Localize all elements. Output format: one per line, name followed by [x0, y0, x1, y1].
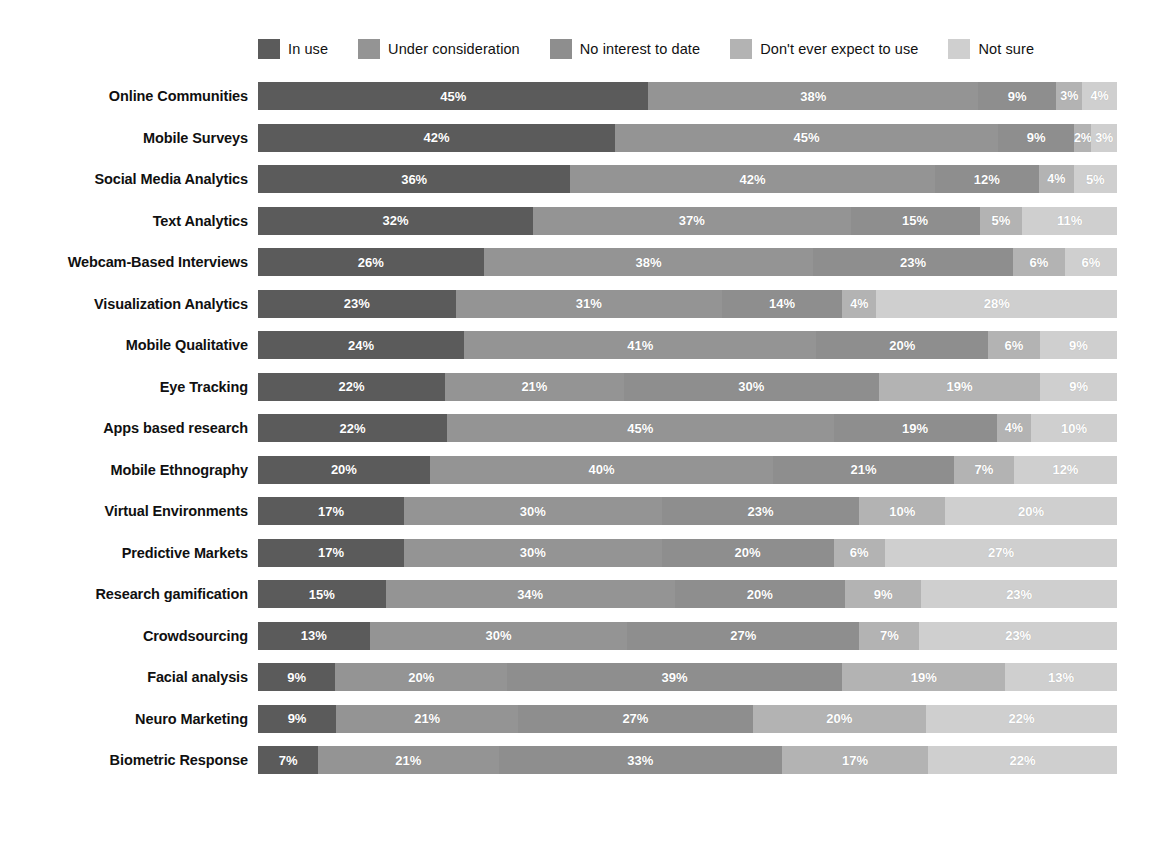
- bar-segment[interactable]: 15%: [851, 207, 980, 235]
- stacked-bar[interactable]: 15%34%20%9%23%: [258, 580, 1117, 608]
- bar-segment[interactable]: 4%: [1039, 165, 1074, 193]
- stacked-bar[interactable]: 9%21%27%20%22%: [258, 705, 1117, 733]
- bar-segment[interactable]: 7%: [258, 746, 318, 774]
- bar-segment[interactable]: 6%: [988, 331, 1040, 359]
- bar-segment[interactable]: 9%: [1040, 373, 1117, 401]
- bar-segment[interactable]: 38%: [484, 248, 814, 276]
- bar-segment[interactable]: 39%: [507, 663, 842, 691]
- bar-segment[interactable]: 6%: [834, 539, 886, 567]
- bar-segment[interactable]: 12%: [935, 165, 1039, 193]
- bar-segment[interactable]: 9%: [258, 663, 335, 691]
- bar-segment[interactable]: 37%: [533, 207, 851, 235]
- bar-segment[interactable]: 20%: [675, 580, 845, 608]
- legend-item[interactable]: Not sure: [948, 39, 1034, 59]
- bar-segment[interactable]: 23%: [662, 497, 860, 525]
- bar-segment[interactable]: 10%: [1031, 414, 1117, 442]
- bar-segment[interactable]: 24%: [258, 331, 464, 359]
- bar-segment[interactable]: 22%: [258, 373, 445, 401]
- bar-segment[interactable]: 41%: [464, 331, 816, 359]
- legend-item[interactable]: Under consideration: [358, 39, 520, 59]
- bar-segment[interactable]: 20%: [662, 539, 834, 567]
- bar-segment[interactable]: 34%: [386, 580, 675, 608]
- bar-segment[interactable]: 19%: [879, 373, 1041, 401]
- bar-segment[interactable]: 21%: [336, 705, 518, 733]
- legend-item[interactable]: In use: [258, 39, 328, 59]
- bar-segment[interactable]: 23%: [258, 290, 456, 318]
- bar-segment[interactable]: 12%: [1014, 456, 1117, 484]
- bar-segment[interactable]: 5%: [980, 207, 1023, 235]
- bar-segment[interactable]: 31%: [456, 290, 722, 318]
- bar-segment[interactable]: 42%: [258, 124, 615, 152]
- bar-segment[interactable]: 17%: [258, 539, 404, 567]
- stacked-bar[interactable]: 32%37%15%5%11%: [258, 207, 1117, 235]
- bar-segment[interactable]: 20%: [258, 456, 430, 484]
- bar-segment[interactable]: 13%: [258, 622, 370, 650]
- bar-segment[interactable]: 45%: [258, 82, 648, 110]
- bar-segment[interactable]: 10%: [859, 497, 945, 525]
- legend-item[interactable]: Don't ever expect to use: [730, 39, 918, 59]
- bar-segment[interactable]: 23%: [919, 622, 1117, 650]
- bar-segment[interactable]: 30%: [370, 622, 628, 650]
- bar-segment[interactable]: 19%: [834, 414, 997, 442]
- bar-segment[interactable]: 4%: [1082, 82, 1117, 110]
- bar-segment[interactable]: 3%: [1091, 124, 1117, 152]
- bar-segment[interactable]: 45%: [447, 414, 834, 442]
- bar-segment[interactable]: 11%: [1022, 207, 1116, 235]
- bar-segment[interactable]: 21%: [773, 456, 953, 484]
- bar-segment[interactable]: 32%: [258, 207, 533, 235]
- bar-segment[interactable]: 40%: [430, 456, 774, 484]
- bar-segment[interactable]: 27%: [518, 705, 752, 733]
- bar-segment[interactable]: 27%: [885, 539, 1117, 567]
- bar-segment[interactable]: 20%: [335, 663, 507, 691]
- bar-segment[interactable]: 14%: [722, 290, 842, 318]
- bar-segment[interactable]: 19%: [842, 663, 1005, 691]
- bar-segment[interactable]: 21%: [445, 373, 624, 401]
- stacked-bar[interactable]: 20%40%21%7%12%: [258, 456, 1117, 484]
- bar-segment[interactable]: 15%: [258, 580, 386, 608]
- bar-segment[interactable]: 20%: [816, 331, 988, 359]
- bar-segment[interactable]: 9%: [1040, 331, 1117, 359]
- stacked-bar[interactable]: 23%31%14%4%28%: [258, 290, 1117, 318]
- bar-segment[interactable]: 9%: [258, 705, 336, 733]
- bar-segment[interactable]: 28%: [876, 290, 1117, 318]
- bar-segment[interactable]: 33%: [499, 746, 782, 774]
- bar-segment[interactable]: 9%: [998, 124, 1075, 152]
- stacked-bar[interactable]: 17%30%20%6%27%: [258, 539, 1117, 567]
- bar-segment[interactable]: 22%: [258, 414, 447, 442]
- bar-segment[interactable]: 27%: [627, 622, 859, 650]
- stacked-bar[interactable]: 45%38%9%3%4%: [258, 82, 1117, 110]
- stacked-bar[interactable]: 22%45%19%4%10%: [258, 414, 1117, 442]
- bar-segment[interactable]: 5%: [1074, 165, 1117, 193]
- bar-segment[interactable]: 7%: [954, 456, 1014, 484]
- bar-segment[interactable]: 17%: [782, 746, 928, 774]
- stacked-bar[interactable]: 9%20%39%19%13%: [258, 663, 1117, 691]
- bar-segment[interactable]: 38%: [648, 82, 978, 110]
- bar-segment[interactable]: 42%: [570, 165, 934, 193]
- legend-item[interactable]: No interest to date: [550, 39, 700, 59]
- bar-segment[interactable]: 9%: [845, 580, 922, 608]
- stacked-bar[interactable]: 36%42%12%4%5%: [258, 165, 1117, 193]
- bar-segment[interactable]: 6%: [1013, 248, 1065, 276]
- stacked-bar[interactable]: 42%45%9%2%3%: [258, 124, 1117, 152]
- bar-segment[interactable]: 4%: [997, 414, 1031, 442]
- stacked-bar[interactable]: 22%21%30%19%9%: [258, 373, 1117, 401]
- bar-segment[interactable]: 36%: [258, 165, 570, 193]
- bar-segment[interactable]: 13%: [1005, 663, 1117, 691]
- bar-segment[interactable]: 30%: [404, 539, 662, 567]
- bar-segment[interactable]: 30%: [404, 497, 662, 525]
- bar-segment[interactable]: 22%: [926, 705, 1117, 733]
- stacked-bar[interactable]: 26%38%23%6%6%: [258, 248, 1117, 276]
- bar-segment[interactable]: 3%: [1056, 82, 1082, 110]
- bar-segment[interactable]: 23%: [813, 248, 1013, 276]
- bar-segment[interactable]: 20%: [945, 497, 1117, 525]
- stacked-bar[interactable]: 13%30%27%7%23%: [258, 622, 1117, 650]
- bar-segment[interactable]: 6%: [1065, 248, 1117, 276]
- bar-segment[interactable]: 9%: [978, 82, 1056, 110]
- bar-segment[interactable]: 26%: [258, 248, 484, 276]
- bar-segment[interactable]: 20%: [753, 705, 927, 733]
- bar-segment[interactable]: 23%: [921, 580, 1117, 608]
- bar-segment[interactable]: 4%: [842, 290, 876, 318]
- bar-segment[interactable]: 45%: [615, 124, 998, 152]
- stacked-bar[interactable]: 24%41%20%6%9%: [258, 331, 1117, 359]
- bar-segment[interactable]: 7%: [859, 622, 919, 650]
